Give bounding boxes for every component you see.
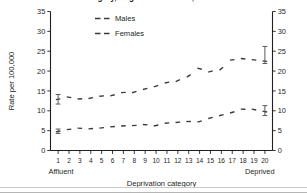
data-point [165, 82, 170, 83]
y-tick-label-left: 0 [41, 146, 45, 155]
x-tick-label: 18 [239, 157, 247, 164]
legend-label-females: Females [115, 29, 144, 38]
x-tick-label: 11 [164, 157, 171, 164]
figure-container: category, England and Wales, 1992-99 051… [0, 0, 307, 193]
x-tick-label: 3 [78, 157, 82, 164]
x-tick-label: 8 [132, 157, 136, 164]
data-point [252, 109, 257, 110]
y-tick-label-right: 5 [278, 126, 282, 135]
footer-divider [0, 187, 307, 193]
data-point [197, 121, 201, 122]
x-tick-label: 10 [152, 157, 160, 164]
x-tick-label: 9 [143, 157, 147, 164]
y-tick-label-left: 30 [37, 27, 45, 36]
y-tick-label-left: 20 [37, 67, 45, 76]
data-point [67, 129, 72, 130]
data-point [67, 97, 72, 98]
x-tick-label: 17 [229, 157, 237, 164]
series-males [56, 46, 268, 104]
x-tick-label: 12 [174, 157, 182, 164]
x-axis-deprived-label: Deprived [245, 167, 275, 176]
y-tick-label-right: 15 [278, 87, 286, 96]
legend-label-males: Males [115, 14, 135, 23]
data-point [99, 128, 104, 129]
data-point [252, 60, 257, 61]
x-tick-label: 14 [196, 157, 204, 164]
y-tick-label-left: 10 [37, 106, 45, 115]
y-tick-label-left: 15 [37, 87, 45, 96]
x-tick-label: 7 [122, 157, 126, 164]
chart-canvas: 0510152025303505101520253035123456789101… [0, 0, 307, 193]
data-point [220, 67, 224, 70]
y-tick-label-right: 30 [278, 27, 286, 36]
x-tick-label: 4 [89, 157, 93, 164]
x-tick-label: 2 [67, 157, 71, 164]
y-tick-label-right: 0 [278, 146, 282, 155]
data-point [110, 95, 114, 96]
y-tick-label-right: 10 [278, 106, 286, 115]
data-point [230, 112, 234, 113]
x-tick-label: 1 [56, 157, 60, 164]
x-tick-label: 19 [250, 157, 258, 164]
y-tick-label-right: 35 [278, 7, 286, 16]
data-point [154, 125, 158, 126]
data-point [219, 115, 223, 116]
x-axis-affluent-label: Affluent [49, 167, 74, 176]
series-females [56, 106, 268, 134]
y-tick-label-left: 35 [37, 7, 45, 16]
data-point [176, 80, 180, 82]
data-point [187, 75, 191, 78]
data-point [154, 85, 158, 86]
y-tick-label-left: 5 [41, 126, 45, 135]
y-tick-label-left: 25 [37, 47, 45, 56]
data-point [208, 117, 212, 118]
x-tick-label: 5 [100, 157, 104, 164]
data-point [197, 68, 201, 69]
x-tick-label: 16 [218, 157, 226, 164]
x-tick-label: 15 [207, 157, 215, 164]
data-point [89, 98, 94, 99]
data-point [241, 59, 246, 60]
data-point [208, 71, 212, 72]
x-tick-label: 20 [261, 157, 269, 164]
x-tick-label: 13 [185, 157, 193, 164]
y-tick-label-right: 25 [278, 47, 286, 56]
y-tick-label-right: 20 [278, 67, 286, 76]
data-point [230, 60, 235, 61]
x-tick-label: 6 [111, 157, 115, 164]
data-point [132, 91, 136, 92]
y-axis-title: Rate per 100,000 [7, 52, 16, 111]
data-point [143, 88, 147, 89]
